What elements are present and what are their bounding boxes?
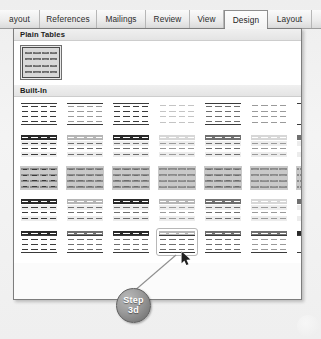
gallery-tile-builtin-5-1[interactable] bbox=[18, 228, 60, 256]
thumb-row bbox=[113, 147, 149, 152]
thumb-row bbox=[67, 120, 103, 125]
gallery-scroll-area[interactable]: Plain Tables bbox=[14, 29, 301, 299]
ribbon-tab-references[interactable]: References bbox=[40, 10, 97, 28]
gallery-tile-builtin-3-4[interactable] bbox=[156, 164, 198, 192]
gallery-tile-builtin-3-5[interactable] bbox=[202, 164, 244, 192]
thumb-row bbox=[21, 141, 57, 146]
gallery-tile-builtin-1-4[interactable] bbox=[156, 100, 198, 128]
thumb-cell bbox=[113, 186, 121, 188]
table-thumbnail bbox=[22, 47, 60, 78]
table-thumbnail bbox=[66, 198, 104, 222]
gallery-tile-builtin-2-6[interactable] bbox=[248, 132, 290, 160]
gallery-tile-builtin-1-6[interactable] bbox=[248, 100, 290, 128]
thumb-cell bbox=[95, 174, 103, 176]
gallery-tile-builtin-4-1[interactable] bbox=[18, 196, 60, 224]
gallery-tile-builtin-5-4[interactable] bbox=[156, 228, 198, 256]
ribbon-tab-review[interactable]: Review bbox=[146, 10, 190, 28]
gallery-tile-builtin-4-5[interactable] bbox=[202, 196, 244, 224]
thumb-cell bbox=[297, 174, 299, 176]
thumb-row bbox=[159, 205, 195, 210]
ribbon-tab-filler bbox=[312, 10, 321, 28]
table-thumbnail bbox=[20, 134, 58, 158]
table-thumbnail bbox=[158, 230, 196, 254]
thumb-row bbox=[251, 103, 287, 108]
ribbon-tab-layout[interactable]: Layout bbox=[268, 10, 312, 28]
gallery-tile-builtin-4-3[interactable] bbox=[110, 196, 152, 224]
gallery-tile-builtin-3-6[interactable] bbox=[248, 164, 290, 192]
thumb-row bbox=[205, 152, 241, 157]
thumb-row bbox=[205, 147, 241, 152]
gallery-tile-builtin-2-3[interactable] bbox=[110, 132, 152, 160]
gallery-tile-builtin-1-7[interactable] bbox=[294, 100, 301, 128]
thumb-cell bbox=[214, 168, 222, 170]
thumb-row bbox=[67, 237, 103, 241]
ribbon-tab-label: Mailings bbox=[105, 14, 136, 24]
thumb-row bbox=[251, 184, 287, 189]
step-callout-badge: Step 3d bbox=[116, 288, 151, 323]
thumb-row bbox=[251, 237, 287, 241]
gallery-tile-builtin-5-2[interactable] bbox=[64, 228, 106, 256]
thumb-cell bbox=[224, 180, 232, 182]
gallery-tile-builtin-1-1[interactable] bbox=[18, 100, 60, 128]
ribbon-tab-mailings[interactable]: Mailings bbox=[97, 10, 146, 28]
gallery-tile-builtin-2-5[interactable] bbox=[202, 132, 244, 160]
thumb-cell bbox=[21, 174, 29, 176]
thumb-row bbox=[67, 103, 103, 108]
table-thumbnail bbox=[158, 102, 196, 126]
corner-artifact bbox=[297, 315, 319, 337]
table-thumbnail bbox=[204, 102, 242, 126]
thumb-cell bbox=[42, 52, 49, 54]
thumb-row bbox=[67, 115, 103, 119]
thumb-cell bbox=[132, 168, 140, 170]
ribbon-tab-design[interactable]: Design bbox=[224, 10, 268, 28]
table-thumbnail bbox=[112, 230, 150, 254]
gallery-tile-builtin-2-1[interactable] bbox=[18, 132, 60, 160]
gallery-tile-builtin-5-7[interactable] bbox=[294, 228, 301, 256]
thumb-row bbox=[251, 147, 287, 152]
gallery-tile-builtin-3-3[interactable] bbox=[110, 164, 152, 192]
gallery-tile-builtin-1-3[interactable] bbox=[110, 100, 152, 128]
thumb-row bbox=[297, 103, 301, 108]
gallery-tile-builtin-3-1[interactable] bbox=[18, 164, 60, 192]
gallery-tile-builtin-4-7[interactable] bbox=[294, 196, 301, 224]
gallery-tile-builtin-5-6[interactable] bbox=[248, 228, 290, 256]
thumb-cell bbox=[233, 180, 241, 182]
gallery-tile-builtin-4-2[interactable] bbox=[64, 196, 106, 224]
thumb-row bbox=[251, 248, 287, 253]
thumb-cell bbox=[159, 174, 167, 176]
thumb-row bbox=[297, 248, 301, 253]
ribbon-tab-view[interactable]: View bbox=[190, 10, 224, 28]
thumb-cell bbox=[168, 180, 176, 182]
thumb-row bbox=[159, 248, 195, 253]
group-title: Built-In bbox=[20, 86, 47, 95]
gallery-tile-builtin-5-3[interactable] bbox=[110, 228, 152, 256]
gallery-tile-builtin-4-4[interactable] bbox=[156, 196, 198, 224]
thumb-row bbox=[67, 147, 103, 152]
gallery-tile-builtin-3-7[interactable] bbox=[294, 164, 301, 192]
thumb-row bbox=[67, 167, 103, 172]
gallery-tile-builtin-1-2[interactable] bbox=[64, 100, 106, 128]
table-thumbnail bbox=[20, 198, 58, 222]
gallery-row bbox=[14, 228, 301, 256]
table-thumbnail bbox=[20, 230, 58, 254]
thumb-cell bbox=[178, 180, 186, 182]
gallery-tile-builtin-4-6[interactable] bbox=[248, 196, 290, 224]
thumb-cell bbox=[178, 186, 186, 188]
thumb-cell bbox=[21, 186, 29, 188]
table-thumbnail bbox=[112, 198, 150, 222]
gallery-tile-builtin-3-2[interactable] bbox=[64, 164, 106, 192]
thumb-row bbox=[297, 243, 301, 247]
thumb-row bbox=[297, 216, 301, 221]
thumb-cell bbox=[141, 168, 149, 170]
gallery-tile-plain-table-1[interactable] bbox=[20, 45, 62, 80]
gallery-tile-builtin-2-4[interactable] bbox=[156, 132, 198, 160]
table-thumbnail bbox=[204, 198, 242, 222]
thumb-row bbox=[113, 173, 149, 178]
gallery-tile-builtin-1-5[interactable] bbox=[202, 100, 244, 128]
gallery-tile-builtin-2-2[interactable] bbox=[64, 132, 106, 160]
ribbon-tab-page-layout[interactable]: ayout bbox=[0, 10, 40, 28]
gallery-tile-builtin-5-5[interactable] bbox=[202, 228, 244, 256]
thumb-row bbox=[205, 103, 241, 108]
thumb-row bbox=[21, 248, 57, 253]
gallery-tile-builtin-2-7[interactable] bbox=[294, 132, 301, 160]
